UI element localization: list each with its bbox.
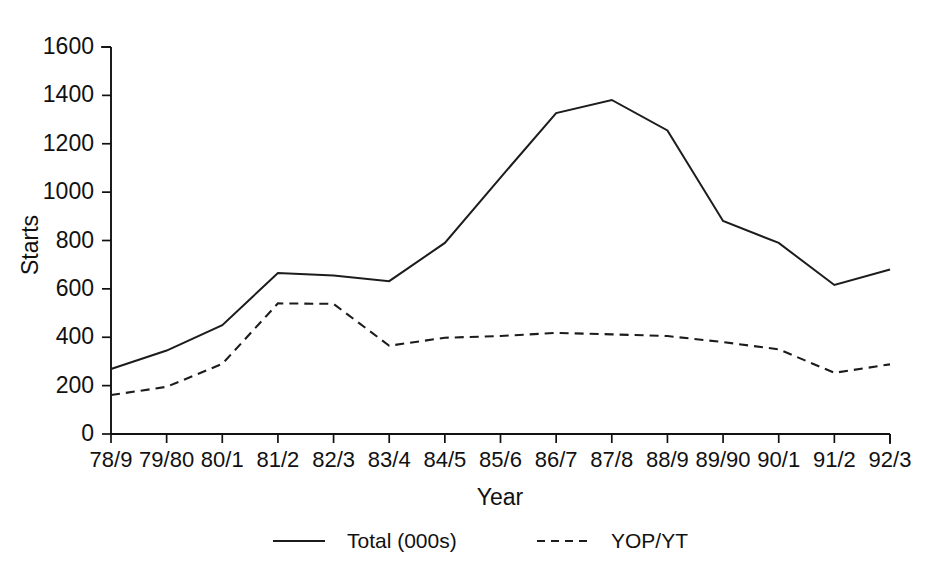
series-line-total — [111, 100, 890, 369]
x-tick-label: 86/7 — [535, 447, 578, 472]
y-axis-ticks — [102, 47, 111, 434]
line-chart: 02004006008001000120014001600 78/979/808… — [0, 0, 929, 577]
cut-off-header-text — [0, 0, 929, 4]
series-line-yop-yt — [111, 303, 890, 395]
x-tick-label: 85/6 — [479, 447, 522, 472]
x-axis-title: Year — [477, 484, 524, 510]
x-tick-label: 88/9 — [646, 447, 689, 472]
x-tick-label: 92/3 — [869, 447, 912, 472]
y-tick-label: 400 — [56, 323, 94, 349]
x-tick-label: 91/2 — [813, 447, 856, 472]
y-tick-label: 800 — [56, 227, 94, 253]
x-axis-ticks — [111, 434, 890, 443]
x-tick-label: 82/3 — [312, 447, 355, 472]
y-tick-label: 1400 — [43, 81, 94, 107]
x-tick-label: 87/8 — [590, 447, 633, 472]
chart-legend: Total (000s) YOP/YT — [273, 529, 688, 552]
x-tick-label: 78/9 — [90, 447, 133, 472]
y-tick-label: 1600 — [43, 33, 94, 59]
legend-label-yop-yt: YOP/YT — [611, 529, 688, 552]
x-tick-label: 80/1 — [201, 447, 244, 472]
x-tick-label: 79/80 — [139, 447, 194, 472]
chart-figure: 02004006008001000120014001600 78/979/808… — [0, 0, 929, 577]
x-tick-label: 84/5 — [423, 447, 466, 472]
y-axis-title: Starts — [17, 215, 43, 275]
x-tick-label: 90/1 — [757, 447, 800, 472]
y-tick-label: 600 — [56, 275, 94, 301]
y-tick-label: 0 — [81, 420, 94, 446]
y-axis-tick-labels: 02004006008001000120014001600 — [43, 33, 94, 446]
y-tick-label: 1200 — [43, 130, 94, 156]
y-tick-label: 200 — [56, 372, 94, 398]
x-tick-label: 83/4 — [368, 447, 411, 472]
legend-label-total: Total (000s) — [347, 529, 457, 552]
y-tick-label: 1000 — [43, 178, 94, 204]
x-tick-label: 89/90 — [696, 447, 751, 472]
x-tick-label: 81/2 — [257, 447, 300, 472]
x-axis-tick-labels: 78/979/8080/181/282/383/484/585/686/787/… — [90, 447, 912, 472]
